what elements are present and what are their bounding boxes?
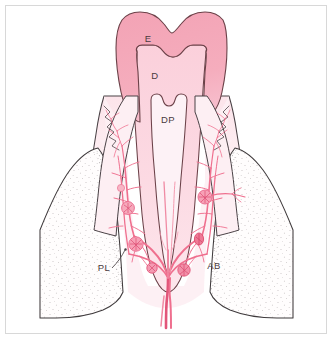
capillary-tuft-left-fine — [117, 184, 124, 191]
tooth-cross-section-diagram: E D DP PL AB — [0, 0, 332, 339]
label-dental-pulp: DP — [161, 114, 175, 125]
capillary-tuft-left-upper — [122, 202, 135, 215]
label-dentin: D — [151, 70, 158, 81]
capillary-tuft-right-upper — [198, 190, 212, 204]
capillary-tuft-right-apical — [178, 264, 190, 276]
capillary-tuft-right-mid — [194, 233, 203, 245]
figure-root: E D DP PL AB — [0, 0, 332, 339]
label-periodontal-ligament: PL — [98, 262, 110, 273]
capillary-tuft-left-apical — [147, 263, 157, 273]
label-enamel: E — [145, 33, 152, 44]
capillary-tuft-left-lower — [129, 237, 143, 251]
label-alveolar-bone: AB — [207, 260, 220, 271]
